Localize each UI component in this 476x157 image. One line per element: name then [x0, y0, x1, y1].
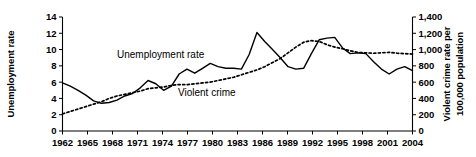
right-axis-title-line2: 100,000 population [454, 32, 465, 116]
right-tick-label: 1,400 [419, 11, 443, 22]
x-tick-label: 2001 [377, 137, 399, 148]
x-tick-label: 1974 [152, 137, 174, 148]
left-tick-label: 4 [51, 93, 57, 104]
left-tick-label: 14 [46, 11, 57, 22]
series-annotations: Unemployment rate Violent crime [117, 49, 236, 98]
x-tick-label: 2004 [402, 137, 424, 148]
series-unemployment-rate-line [63, 32, 413, 103]
right-tick-label: 800 [419, 60, 435, 71]
left-tick-label: 6 [51, 77, 56, 88]
series-violent-crime-line [63, 41, 413, 114]
x-tick-label: 1980 [202, 137, 223, 148]
right-tick-label: 1,000 [419, 44, 443, 55]
right-tick-label: 200 [419, 109, 435, 120]
annotation-violent-crime: Violent crime [178, 87, 236, 98]
x-tick-label: 1995 [327, 137, 349, 148]
left-axis-tick-labels: 02468101214 [46, 11, 57, 136]
x-tick-label: 1989 [277, 137, 298, 148]
chart-figure: 02468101214 Unemployment rate 0200400600… [0, 0, 476, 157]
x-tick-label: 1968 [102, 137, 123, 148]
right-tick-label: 400 [419, 93, 435, 104]
left-y-axis: 02468101214 Unemployment rate [5, 11, 63, 136]
x-axis-tick-labels: 1962196519681971197419771980198319861989… [52, 137, 424, 148]
left-tick-label: 12 [46, 28, 57, 39]
right-tick-label: 1,200 [419, 28, 443, 39]
right-tick-label: 0 [419, 125, 424, 136]
right-axis-title-line1: Violent crime rate per [441, 26, 452, 121]
x-tick-label: 1977 [177, 137, 198, 148]
right-axis-tick-labels: 02004006008001,0001,2001,400 [419, 11, 443, 136]
left-axis-title: Unemployment rate [5, 31, 16, 118]
right-y-axis: 02004006008001,0001,2001,400 Violent cri… [413, 11, 466, 136]
x-axis: 1962196519681971197419771980198319861989… [52, 131, 424, 148]
left-tick-label: 10 [46, 44, 57, 55]
dual-axis-line-chart: 02468101214 Unemployment rate 0200400600… [0, 0, 476, 157]
left-tick-label: 0 [51, 125, 56, 136]
right-tick-label: 600 [419, 77, 435, 88]
x-tick-label: 1998 [352, 137, 373, 148]
x-tick-label: 1986 [252, 137, 273, 148]
plot-area [63, 32, 413, 113]
left-tick-label: 2 [51, 109, 56, 120]
x-tick-label: 1983 [227, 137, 248, 148]
x-tick-label: 1971 [127, 137, 149, 148]
x-tick-label: 1962 [52, 137, 73, 148]
x-tick-label: 1965 [77, 137, 99, 148]
left-tick-label: 8 [51, 60, 56, 71]
x-tick-label: 1992 [302, 137, 323, 148]
annotation-unemployment-rate: Unemployment rate [117, 49, 205, 60]
